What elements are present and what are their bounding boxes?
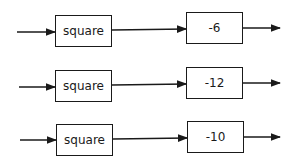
connection-lines	[0, 0, 293, 163]
gain-block-3: -10	[187, 121, 244, 153]
square-block-1: square	[55, 15, 112, 47]
gain-block-1: -6	[186, 12, 243, 44]
square-block-2: square	[55, 70, 112, 102]
square-block-3: square	[56, 124, 113, 156]
gain-block-2: -12	[186, 67, 243, 99]
